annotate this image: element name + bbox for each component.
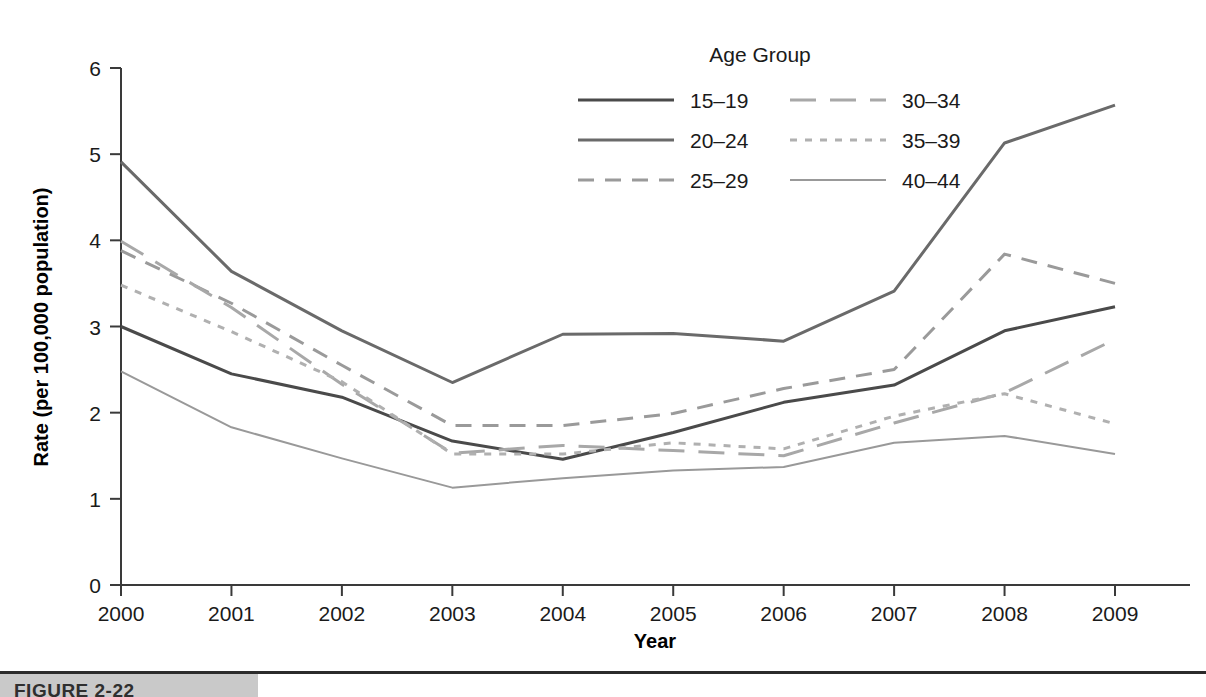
series-group <box>121 105 1115 488</box>
line-chart: 0123456 20002001200220032004200520062007… <box>0 0 1206 670</box>
y-tick-label: 3 <box>89 316 101 339</box>
legend-title: Age Group <box>709 43 811 66</box>
y-tick-label: 1 <box>89 488 101 511</box>
x-tick-label: 2009 <box>1092 602 1139 625</box>
y-tick-group: 0123456 <box>89 57 121 597</box>
y-tick-label: 4 <box>89 229 101 252</box>
x-tick-label: 2007 <box>871 602 918 625</box>
y-tick-label: 0 <box>89 574 101 597</box>
x-tick-label: 2008 <box>981 602 1028 625</box>
x-tick-label: 2002 <box>319 602 366 625</box>
series-line-20-24 <box>121 105 1115 382</box>
x-axis-title: Year <box>634 630 676 652</box>
x-tick-label: 2004 <box>539 602 586 625</box>
y-axis-title: Rate (per 100,000 population) <box>30 188 52 467</box>
legend-entry-group: 15–1920–2425–2930–3435–3940–44 <box>578 89 961 192</box>
legend-label-25-29: 25–29 <box>690 169 748 192</box>
series-line-25-29 <box>121 251 1115 426</box>
series-line-35-39 <box>121 285 1115 454</box>
y-tick-label: 6 <box>89 57 101 80</box>
chart-legend: Age Group 15–1920–2425–2930–3435–3940–44 <box>578 43 961 192</box>
x-tick-label: 2006 <box>760 602 807 625</box>
x-tick-label: 2005 <box>650 602 697 625</box>
x-tick-label: 2000 <box>98 602 145 625</box>
figure-caption-band: FIGURE 2-22 <box>0 671 1206 697</box>
y-tick-label: 5 <box>89 143 101 166</box>
legend-label-30-34: 30–34 <box>902 89 961 112</box>
x-tick-label: 2003 <box>429 602 476 625</box>
y-tick-label: 2 <box>89 402 101 425</box>
series-line-40-44 <box>121 371 1115 487</box>
series-line-15-19 <box>121 307 1115 460</box>
legend-label-35-39: 35–39 <box>902 129 960 152</box>
legend-label-15-19: 15–19 <box>690 89 748 112</box>
legend-label-40-44: 40–44 <box>902 169 961 192</box>
figure-root: 0123456 20002001200220032004200520062007… <box>0 0 1206 697</box>
x-tick-group: 2000200120022003200420052006200720082009 <box>98 585 1139 625</box>
legend-label-20-24: 20–24 <box>690 129 749 152</box>
x-tick-label: 2001 <box>208 602 255 625</box>
figure-caption-text: FIGURE 2-22 <box>14 680 314 697</box>
